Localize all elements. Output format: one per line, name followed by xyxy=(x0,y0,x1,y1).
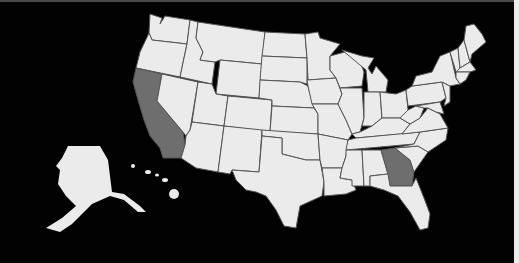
state-kansas[interactable] xyxy=(270,106,318,134)
state-new-mexico[interactable] xyxy=(218,126,262,174)
state-iowa[interactable] xyxy=(307,78,342,104)
state-hawaii[interactable] xyxy=(131,164,179,199)
state-washington[interactable] xyxy=(149,14,190,44)
us-map xyxy=(0,0,519,263)
state-south-dakota[interactable] xyxy=(260,56,307,84)
state-alaska[interactable] xyxy=(46,146,146,232)
state-north-dakota[interactable] xyxy=(262,32,307,58)
state-montana[interactable] xyxy=(196,22,265,64)
state-wyoming[interactable] xyxy=(216,60,262,98)
